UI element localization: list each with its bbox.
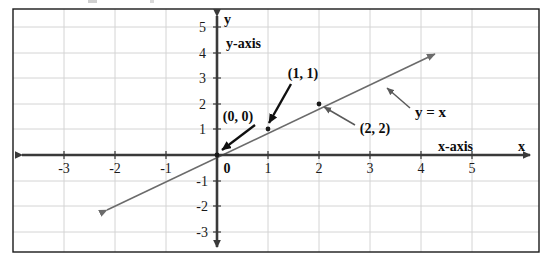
annotation-label-0-0: (0, 0) xyxy=(223,109,254,125)
annotation-label-2-2: (2, 2) xyxy=(360,121,391,137)
annotation-label-1-1: (1, 1) xyxy=(288,66,319,82)
y-tick-label--3: -3 xyxy=(196,225,208,240)
y-tick-label-5: 5 xyxy=(199,20,206,35)
graph-figure: -3 -2 -1 0 1 2 3 4 5 5 4 3 2 1 -1 -2 -3 … xyxy=(0,0,552,262)
data-point-1-1 xyxy=(266,127,271,132)
data-point-2-2 xyxy=(317,102,322,107)
x-tick-label-1: 1 xyxy=(265,161,272,176)
annotation-arrow-equation xyxy=(387,88,410,108)
x-tick-label-5: 5 xyxy=(469,161,476,176)
y-tick-label-1: 1 xyxy=(199,122,206,137)
x-tick-label-0: 0 xyxy=(224,161,231,176)
annotation-arrow-2-2 xyxy=(324,107,355,125)
x-tick-label-2: 2 xyxy=(316,161,323,176)
cropped-text-remnant xyxy=(88,0,154,3)
y-tick-label--1: -1 xyxy=(196,174,208,189)
data-point-0-0 xyxy=(215,153,220,158)
x-tick-label--1: -1 xyxy=(160,161,172,176)
x-tick-label-4: 4 xyxy=(418,161,425,176)
y-axis-letter: y xyxy=(224,12,231,27)
y-tick-label-3: 3 xyxy=(199,71,206,86)
coordinate-plane-svg: -3 -2 -1 0 1 2 3 4 5 5 4 3 2 1 -1 -2 -3 … xyxy=(0,0,552,262)
x-axis-letter: x xyxy=(518,139,525,154)
y-axis-label: y-axis xyxy=(226,36,262,51)
x-tick-label--3: -3 xyxy=(58,161,70,176)
y-tick-label--2: -2 xyxy=(196,199,208,214)
x-tick-label--2: -2 xyxy=(109,161,121,176)
x-tick-label-3: 3 xyxy=(367,161,374,176)
y-tick-label-4: 4 xyxy=(199,46,206,61)
x-axis-label: x-axis xyxy=(438,139,474,154)
y-tick-label-2: 2 xyxy=(199,97,206,112)
equation-label: y = x xyxy=(415,104,447,120)
